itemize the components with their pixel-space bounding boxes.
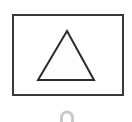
geometry-illustration — [0, 0, 132, 122]
figure-canvas: Triangle inside rectangle with arch belo… — [0, 0, 132, 122]
arch-shape — [62, 112, 73, 122]
